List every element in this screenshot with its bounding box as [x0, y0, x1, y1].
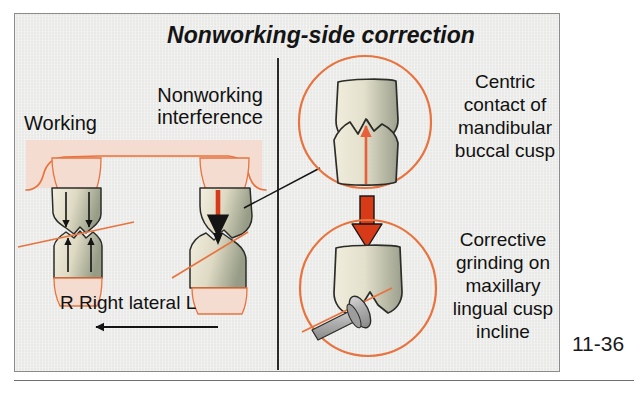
caption-corrective-grinding: Corrective grinding on maxillary lingual…	[440, 228, 566, 343]
figure-baseline-rule	[14, 380, 634, 381]
label-working: Working	[24, 112, 97, 134]
page-title: Nonworking-side correction	[0, 22, 642, 49]
figure-root: Nonworking-side correction	[0, 0, 642, 396]
panel-divider	[277, 58, 279, 370]
label-nonworking-interference: Nonworking interference	[148, 84, 272, 128]
figure-number: 11-36	[572, 332, 624, 356]
label-right-lateral: R Right lateral L	[60, 292, 196, 314]
caption-centric-contact: Centric contact of mandibular buccal cus…	[446, 70, 564, 162]
